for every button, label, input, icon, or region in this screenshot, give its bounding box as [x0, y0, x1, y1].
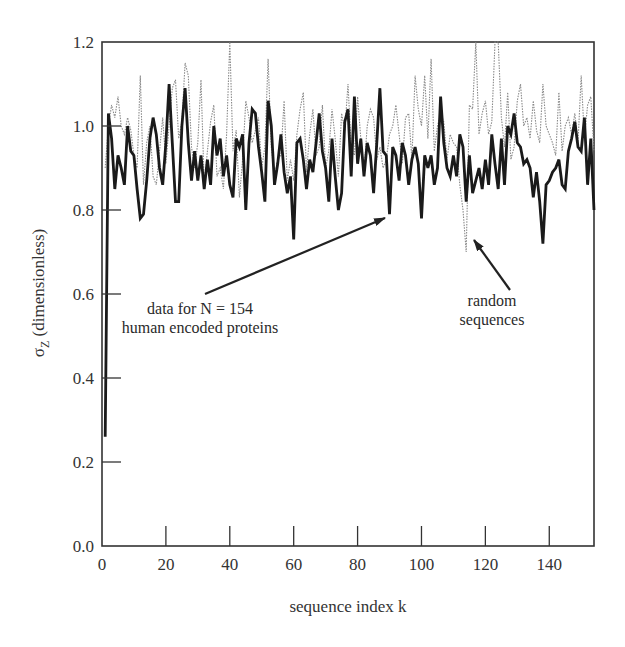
proteins-annotation: data for N = 154human encoded proteins	[122, 300, 278, 337]
x-tick-label: 20	[157, 555, 174, 574]
y-tick-label: 1.2	[73, 33, 94, 52]
random-arrow	[474, 240, 510, 290]
y-axis-subscript: Z	[38, 341, 52, 348]
y-axis-ticks: 0.00.20.40.60.81.01.2	[73, 33, 121, 556]
x-tick-label: 120	[473, 555, 499, 574]
annotations: data for N = 154human encoded proteinsra…	[122, 218, 525, 337]
annotation-line: data for N = 154	[147, 300, 253, 317]
random-annotation: randomsequences	[460, 292, 525, 329]
x-tick-label: 140	[537, 555, 563, 574]
chart-figure: 020406080100120140 0.00.20.40.60.81.01.2…	[0, 0, 625, 647]
x-tick-label: 100	[409, 555, 435, 574]
y-tick-label: 0.6	[73, 285, 94, 304]
annotation-line: random	[468, 292, 517, 309]
annotation-line: human encoded proteins	[122, 319, 278, 337]
x-tick-label: 0	[98, 555, 107, 574]
y-axis-units: (dimensionless)	[29, 229, 48, 341]
x-tick-label: 60	[285, 555, 302, 574]
y-tick-label: 1.0	[73, 117, 94, 136]
y-tick-label: 0.2	[73, 453, 94, 472]
x-axis-title: sequence index k	[289, 597, 407, 616]
y-axis-symbol: σ	[29, 348, 48, 357]
x-tick-label: 40	[221, 555, 238, 574]
y-tick-label: 0.4	[73, 369, 95, 388]
y-tick-label: 0.8	[73, 201, 94, 220]
annotation-line: sequences	[460, 311, 525, 329]
x-tick-label: 80	[349, 555, 366, 574]
x-axis-ticks: 020406080100120140	[98, 526, 562, 574]
y-axis-title: σZ (dimensionless)	[29, 229, 52, 357]
y-tick-label: 0.0	[73, 537, 94, 556]
